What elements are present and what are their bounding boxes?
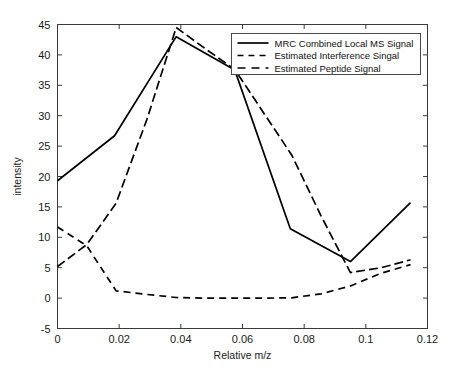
chart-legend: MRC Combined Local MS SignalEstimated In… bbox=[232, 34, 421, 75]
x-tick-label: 0.02 bbox=[108, 333, 129, 345]
x-tick-label: 0.08 bbox=[293, 333, 314, 345]
y-tick-label: 35 bbox=[38, 79, 50, 91]
line-chart-canvas: 00.020.040.060.080.10.12 -50510152025303… bbox=[0, 0, 455, 375]
chart-figure: 00.020.040.060.080.10.12 -50510152025303… bbox=[0, 0, 455, 375]
x-axis-title: Relative m/z bbox=[214, 349, 272, 361]
legend-label-2: Estimated Interference Singal bbox=[275, 50, 400, 61]
y-tick-label: -5 bbox=[41, 323, 51, 335]
x-tick-label: 0.04 bbox=[170, 333, 191, 345]
x-tick-label: 0.06 bbox=[232, 333, 253, 345]
y-tick-label: 25 bbox=[38, 140, 50, 152]
y-tick-label: 10 bbox=[38, 231, 50, 243]
x-tick-label: 0.1 bbox=[358, 333, 373, 345]
y-tick-label: 30 bbox=[38, 110, 50, 122]
legend-label-1: MRC Combined Local MS Signal bbox=[275, 38, 414, 49]
x-tick-label: 0.12 bbox=[417, 333, 438, 345]
y-tick-label: 15 bbox=[38, 201, 50, 213]
y-tick-label: 5 bbox=[44, 262, 50, 274]
y-tick-label: 45 bbox=[38, 19, 50, 31]
y-tick-label: 0 bbox=[44, 292, 50, 304]
legend-label-3: Estimated Peptide Signal bbox=[275, 63, 381, 74]
series-line-2 bbox=[58, 227, 411, 298]
y-axis-title: intensity bbox=[11, 156, 23, 195]
y-tick-label: 40 bbox=[38, 49, 50, 61]
y-tick-label: 20 bbox=[38, 171, 50, 183]
x-tick-label: 0 bbox=[54, 333, 60, 345]
